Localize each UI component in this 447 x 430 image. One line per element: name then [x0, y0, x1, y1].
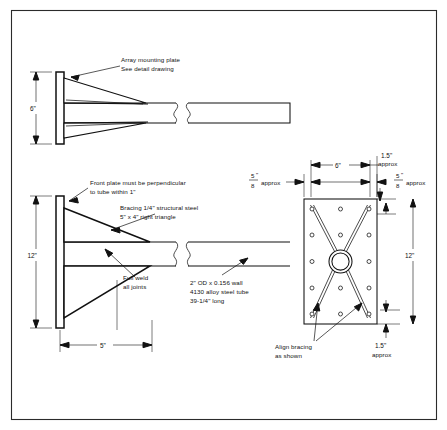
top-view-brace-upper — [64, 78, 146, 103]
bolt-hole — [367, 312, 371, 316]
plate-top-right-edge-qualifier: approx — [378, 160, 398, 167]
side-view-height-dimension-label: 12" — [28, 252, 37, 259]
top-view-tube-right-segment — [188, 103, 290, 123]
top-view-break-line-right — [186, 103, 190, 123]
bolt-hole — [367, 207, 371, 211]
plate-6in-arrow-right — [361, 162, 370, 167]
side-view-break-line-right — [186, 242, 190, 266]
side-view-height-dimension: 12" — [27, 196, 52, 328]
plate-top-width-label: 6" — [335, 162, 341, 169]
array-plate-callout-line1: Array mounting plate — [121, 56, 181, 63]
plate-left-gap-qualifier: approx — [261, 179, 281, 186]
plate-bottom-edge-value: 1.5" — [375, 342, 386, 349]
align-bracing-line1: Align bracing — [275, 343, 313, 350]
array-plate-callout: Array mounting plate See detail drawing — [71, 56, 181, 80]
plate-left-gap-arrow — [295, 179, 304, 184]
plate-inner-arrow-right — [361, 179, 370, 184]
plate-left-gap-dimension: 5 " 8 approx — [249, 171, 304, 189]
bolt-hole — [310, 286, 314, 290]
bracing-note-line2: 5" x 4" right triangle — [120, 213, 176, 220]
side-view-front-plate — [56, 196, 64, 328]
bolt-hole — [310, 260, 314, 264]
side-dim-arrow-down — [33, 320, 39, 328]
plate-inner-span-dimension — [304, 174, 386, 197]
top-dim-arrow-down — [33, 136, 39, 144]
plate-inner-arrow-left — [311, 179, 320, 184]
plate-right-gap-numerator: 5 — [396, 172, 400, 179]
tube-spec-line3: 39-1/4" long — [190, 297, 225, 304]
weld-note-arrow — [105, 249, 113, 257]
plate-height-dimension: 12" — [404, 199, 422, 324]
plate-top-right-edge-dimension: 1.5" approx — [370, 152, 398, 197]
bolt-hole — [367, 286, 371, 290]
front-plate-note-leader — [69, 188, 88, 201]
plate-right-gap-qualifier: approx — [406, 179, 426, 186]
plate-detail-group: 6" 1.5" approx 5 " 8 approx — [249, 152, 426, 359]
bolt-hole — [310, 312, 314, 316]
bolt-hole — [339, 286, 343, 290]
front-plate-note-line2: to tube within 1" — [90, 188, 136, 195]
side-view-width-dimension-label: 5" — [100, 342, 106, 349]
drawing-sheet: 6" Array mounting plate See detail drawi… — [0, 0, 447, 430]
bolt-hole — [339, 207, 343, 211]
weld-note-line2: all joints — [123, 283, 146, 290]
bracing-note-callout: Bracing 1/4" structural steel 5" x 4" ri… — [111, 204, 198, 233]
top-view-height-dimension-label: 6" — [30, 105, 36, 112]
plate-right-gap-dimension: 5 " 8 approx — [377, 171, 426, 201]
weld-note-line1: Full weld — [123, 274, 149, 281]
bolt-hole — [339, 312, 343, 316]
engineering-drawing-canvas: 6" Array mounting plate See detail drawi… — [0, 0, 447, 430]
top-dim-arrow-up — [33, 72, 39, 80]
top-view-group: 6" Array mounting plate See detail drawi… — [29, 56, 290, 144]
plate-inner-arrow-far-right — [377, 179, 386, 184]
plate-left-gap-denominator: 8 — [251, 182, 255, 189]
front-plate-note-arrow — [69, 198, 78, 204]
plate-right-gap-arrow-down — [377, 192, 382, 201]
top-view-mounting-plate — [56, 72, 64, 144]
plate-6in-arrow-left — [311, 162, 320, 167]
front-plate-note-line1: Front plate must be perpendicular — [90, 179, 186, 186]
array-plate-callout-line2: See detail drawing — [121, 65, 174, 72]
align-bracing-line2: as shown — [275, 352, 302, 359]
tube-spec-line2: 4130 alloy steel tube — [190, 288, 249, 295]
bolt-hole — [367, 260, 371, 264]
plate-top-width-dimension: 6" — [311, 159, 370, 197]
plate-left-gap-numerator: 5 — [251, 172, 255, 179]
plate-height-arrow-up — [410, 199, 415, 207]
bracing-note-line1: Bracing 1/4" structural steel — [120, 204, 198, 211]
top-view-height-dimension: 6" — [29, 72, 52, 144]
plate-left-gap-unit: " — [256, 171, 258, 178]
bolt-hole — [339, 233, 343, 237]
plate-height-arrow-down — [410, 316, 415, 324]
array-plate-leader-arrow — [71, 75, 79, 80]
plate-right-gap-unit: " — [401, 171, 403, 178]
front-plate-note-callout: Front plate must be perpendicular to tub… — [69, 179, 186, 203]
bolt-hole — [310, 233, 314, 237]
plate-top-right-edge-value: 1.5" — [381, 152, 392, 159]
tube-spec-line1: 2" OD x 0.156 wall — [190, 279, 243, 286]
bolt-hole — [310, 207, 314, 211]
bolt-hole — [367, 233, 371, 237]
tube-spec-callout: 2" OD x 0.156 wall 4130 alloy steel tube… — [190, 258, 249, 304]
plate-top-offset-arrow — [383, 203, 388, 211]
plate-height-label: 12" — [405, 252, 414, 259]
plate-bottom-edge-qualifier: approx — [372, 351, 392, 358]
side-width-arrow-left — [60, 342, 69, 347]
plate-bottom-arrow-down — [383, 304, 388, 312]
side-view-width-dimension: 5" — [60, 320, 152, 352]
side-dim-arrow-up — [33, 196, 39, 204]
side-view-break-line-left — [174, 242, 178, 266]
plate-right-gap-denominator: 8 — [396, 182, 400, 189]
side-view-group: 12" 5" Front plate must be perpendicular… — [27, 179, 290, 352]
plate-detail-center-bore-inner — [332, 253, 349, 270]
side-width-arrow-right — [143, 342, 152, 347]
plate-bottom-arrow-up — [383, 324, 388, 332]
tube-spec-arrow — [240, 258, 248, 264]
top-view-break-line-left — [174, 103, 178, 123]
